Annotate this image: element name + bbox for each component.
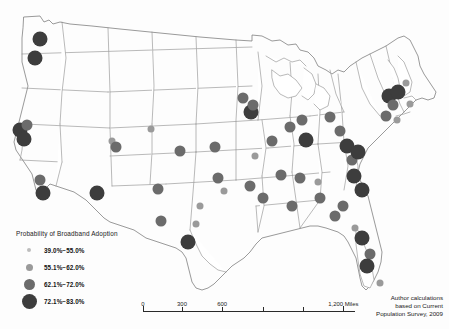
data-circle [351, 145, 366, 160]
data-circle [111, 142, 122, 153]
legend-label: 72.1%−83.0% [44, 298, 85, 305]
data-circle [403, 80, 410, 87]
data-circle [381, 111, 392, 122]
legend-swatch [26, 264, 33, 271]
data-circle [267, 136, 278, 147]
data-circle [297, 115, 308, 126]
data-circle [210, 142, 221, 153]
map-legend: Probability of Broadband Adoption 39.0%−… [14, 230, 164, 310]
scale-label: 1,200 Miles [328, 301, 358, 307]
data-circle [252, 153, 259, 160]
data-circle [377, 280, 384, 287]
legend-entry: 62.1%−72.0% [14, 276, 164, 292]
data-circle [28, 51, 43, 66]
data-circle [347, 169, 362, 184]
legend-label: 55.1%−62.0% [44, 264, 85, 271]
data-circle [325, 112, 336, 123]
scale-label: 0 [141, 301, 144, 307]
data-circle [148, 126, 155, 133]
legend-swatch [24, 279, 35, 290]
data-circle [287, 201, 298, 212]
data-circle [355, 231, 370, 246]
attribution-line-1: Author calculations [376, 294, 443, 302]
data-circle [90, 186, 105, 201]
scale-tick [263, 307, 264, 312]
data-circle [276, 170, 287, 181]
data-circle [388, 100, 399, 111]
data-circle [17, 132, 32, 147]
data-circle [153, 184, 164, 195]
legend-label: 39.0%−55.0% [44, 247, 85, 254]
data-circle [391, 85, 406, 100]
legend-swatch-cell [14, 264, 44, 271]
broadband-adoption-map: Probability of Broadband Adoption 39.0%−… [0, 0, 449, 329]
data-circle [330, 211, 341, 222]
data-circle [197, 203, 204, 210]
data-circle [22, 120, 33, 131]
data-circle [315, 179, 322, 186]
legend-swatch [22, 294, 37, 309]
data-circle [407, 101, 414, 108]
data-circle [238, 93, 249, 104]
data-circle [258, 193, 269, 204]
data-circle [394, 117, 401, 124]
data-circle [360, 259, 375, 274]
data-circle [315, 193, 326, 204]
data-circle [285, 122, 296, 133]
scale-label: 300 [177, 301, 187, 307]
attribution-line-2: based on Current [376, 302, 443, 310]
data-circle [175, 146, 186, 157]
legend-entry: 39.0%−55.0% [14, 242, 164, 258]
legend-entry: 55.1%−62.0% [14, 259, 164, 275]
legend-swatch-cell [14, 279, 44, 290]
legend-swatch-cell [14, 294, 44, 309]
data-circle [35, 175, 46, 186]
data-circle [245, 181, 256, 192]
scale-tick [303, 307, 304, 312]
scale-bar: 03006001,200 Miles [143, 296, 355, 316]
data-circle [295, 173, 306, 184]
legend-entries: 39.0%−55.0%55.1%−62.0%62.1%−72.0%72.1%−8… [14, 242, 164, 309]
legend-swatch-cell [14, 248, 44, 252]
data-circle [221, 188, 228, 195]
data-circle [33, 32, 48, 47]
data-circle [193, 221, 200, 228]
data-circle [181, 235, 196, 250]
data-circle [36, 186, 51, 201]
attribution-line-3: Population Survey, 2009 [376, 310, 443, 318]
data-circle [299, 133, 314, 148]
data-circle [156, 216, 167, 227]
scale-label: 600 [217, 301, 227, 307]
data-circle [335, 126, 346, 137]
legend-title: Probability of Broadband Adoption [16, 230, 164, 237]
data-circle [355, 183, 370, 198]
legend-swatch [27, 248, 31, 252]
legend-label: 62.1%−72.0% [44, 281, 85, 288]
data-circle [338, 201, 349, 212]
scale-bar-line [143, 311, 355, 312]
data-circle [213, 173, 224, 184]
scale-tick [222, 307, 223, 312]
source-attribution: Author calculations based on Current Pop… [376, 294, 443, 319]
data-circle [248, 100, 259, 111]
scale-tick [182, 307, 183, 312]
